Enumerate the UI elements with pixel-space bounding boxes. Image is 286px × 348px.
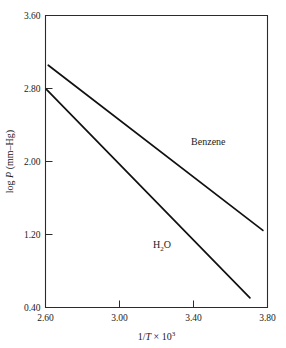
series-line-benzene [48, 65, 263, 230]
plot-frame [46, 16, 268, 308]
chart-canvas: 3.602.802.001.200.40 2.603.003.403.80 Be… [0, 0, 286, 348]
series-label-h2o: H2O [153, 239, 171, 253]
y-axis-title: log P (mm–Hg) [4, 130, 16, 193]
y-tick-label: 1.20 [24, 230, 41, 240]
x-tick-label: 3.40 [185, 313, 202, 323]
x-tick-label: 2.60 [37, 313, 54, 323]
data-series-group [46, 65, 262, 298]
x-tick-label: 3.80 [259, 313, 276, 323]
axis-frame [46, 16, 268, 308]
figure-container: 3.602.802.001.200.40 2.603.003.403.80 Be… [0, 0, 286, 348]
y-tick-label: 2.80 [24, 84, 41, 94]
y-tick-label: 2.00 [24, 157, 41, 167]
y-axis-ticks [46, 89, 53, 235]
x-axis-ticks [120, 301, 194, 308]
y-tick-label: 0.40 [24, 303, 41, 313]
series-line-h2o [46, 89, 250, 298]
series-label-benzene: Benzene [191, 136, 226, 147]
x-axis-title: 1/T × 103 [138, 330, 176, 342]
x-tick-labels: 2.603.003.403.80 [37, 313, 276, 323]
y-tick-labels: 3.602.802.001.200.40 [24, 11, 41, 313]
y-tick-label: 3.60 [24, 11, 41, 21]
x-tick-label: 3.00 [111, 313, 128, 323]
